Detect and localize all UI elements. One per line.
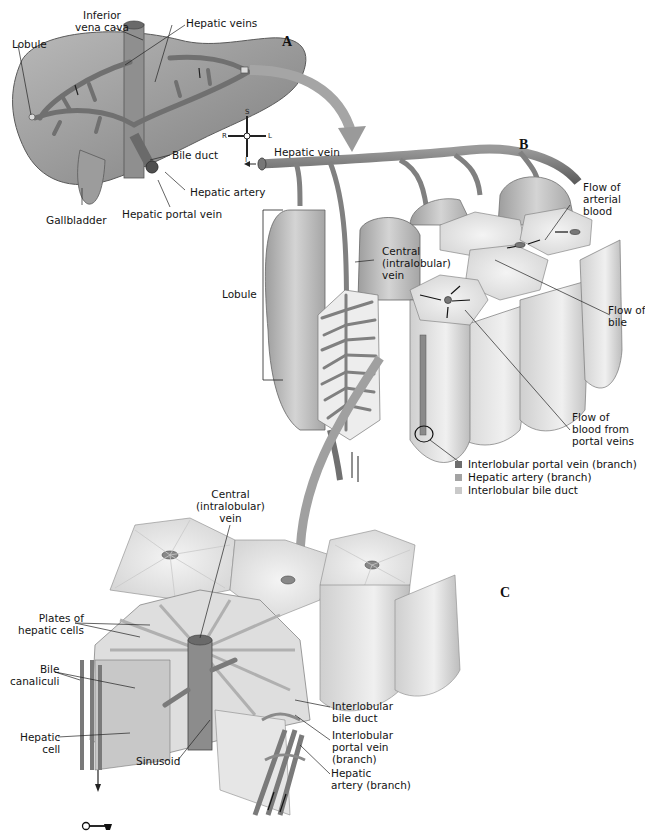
- label-inferior-vena-cava: Inferior vena cava: [75, 9, 129, 33]
- label-gallbladder: Gallbladder: [46, 214, 107, 226]
- swatch-dark: [455, 461, 462, 468]
- panel-label-b: B: [519, 137, 528, 153]
- compass-inferior: I: [245, 156, 247, 164]
- label-lobule-a: Lobule: [12, 38, 47, 50]
- legend-item-portal-vein: Interlobular portal vein (branch): [455, 458, 637, 471]
- label-hepatic-veins: Hepatic veins: [186, 17, 257, 29]
- label-flow-of-bile: Flow of bile: [608, 304, 645, 328]
- label-hepatic-portal-vein: Hepatic portal vein: [122, 208, 222, 220]
- label-bile-canaliculi: Bile canaliculi: [10, 663, 59, 687]
- legend-item-hepatic-artery: Hepatic artery (branch): [455, 471, 637, 484]
- panel-label-a: A: [282, 34, 292, 50]
- label-hepatic-cell: Hepatic cell: [20, 731, 60, 755]
- legend-item-bile-duct: Interlobular bile duct: [455, 484, 637, 497]
- label-interlobular-portal-vein: Interlobular portal vein (branch): [332, 729, 393, 765]
- label-central-vein-c: Central (intralobular) vein: [196, 488, 265, 524]
- compass-labels: S I R L: [222, 112, 272, 162]
- label-lobule-b: Lobule: [222, 288, 257, 300]
- lobules-panel-b: [244, 149, 622, 575]
- label-hepatic-vein: Hepatic vein: [274, 146, 340, 158]
- label-flow-portal-blood: Flow of blood from portal veins: [572, 411, 634, 447]
- panel-label-c: C: [500, 585, 510, 601]
- compass-right: R: [222, 132, 227, 140]
- key-icon: [83, 823, 113, 831]
- label-sinusoid: Sinusoid: [136, 755, 180, 767]
- label-plates-of-hepatic-cells: Plates of hepatic cells: [18, 612, 84, 636]
- label-interlobular-bile-duct: Interlobular bile duct: [332, 700, 393, 724]
- legend: Interlobular portal vein (branch) Hepati…: [455, 458, 637, 497]
- label-central-vein-b: Central (intralobular) vein: [382, 245, 451, 281]
- label-flow-arterial-blood: Flow of arterial blood: [583, 181, 621, 217]
- label-hepatic-artery-branch: Hepatic artery (branch): [331, 767, 411, 791]
- label-hepatic-artery: Hepatic artery: [190, 186, 265, 198]
- compass-superior: S: [245, 108, 249, 116]
- swatch-medium: [455, 474, 462, 481]
- swatch-light: [455, 487, 462, 494]
- label-bile-duct: Bile duct: [172, 149, 218, 161]
- compass-left: L: [268, 132, 272, 140]
